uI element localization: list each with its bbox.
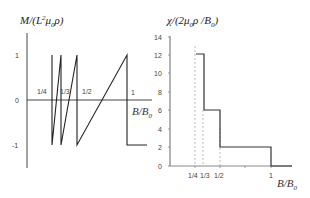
right-x-axis-label: B/B0 (277, 177, 298, 192)
right-ytick-4: 4 (158, 126, 162, 133)
left-ytick-1: 1 (15, 52, 19, 59)
right-xtick-third: 1/3 (200, 172, 210, 179)
right-ytick-2: 2 (158, 144, 162, 151)
right-ytick-12: 12 (154, 52, 162, 59)
left-x-axis-label: B/B0 (132, 105, 153, 120)
right-xtick-one: 1 (269, 172, 273, 179)
right-xtick-quarter: 1/4 (188, 172, 198, 179)
right-step-line (196, 54, 292, 166)
figure: M/(L2μ0ρ) 1 0 -1 1/4 1/3 1/2 1 B/B0 χ/(2… (0, 0, 310, 198)
right-chart-title: χ/(2μ0ρ /B0) (166, 14, 218, 29)
left-chart-title: M/(L2μ0ρ) (19, 14, 64, 29)
left-ytick-minus1: -1 (12, 142, 18, 149)
right-chart: χ/(2μ0ρ /B0) 14 12 10 8 6 4 2 0 (154, 14, 298, 192)
left-annot-quarter: 1/4 (37, 88, 47, 95)
left-annot-one: 1 (131, 89, 135, 96)
right-ytick-8: 8 (158, 89, 162, 96)
right-ytick-0: 0 (158, 163, 162, 170)
left-annot-half: 1/2 (82, 88, 92, 95)
right-reference-lines (195, 46, 220, 166)
left-chart: M/(L2μ0ρ) 1 0 -1 1/4 1/3 1/2 1 B/B0 (12, 14, 153, 168)
right-ytick-14: 14 (154, 34, 162, 41)
right-xtick-half: 1/2 (214, 172, 224, 179)
right-ytick-6: 6 (158, 107, 162, 114)
left-annot-third: 1/3 (60, 88, 70, 95)
left-ytick-0: 0 (15, 97, 19, 104)
right-ytick-10: 10 (154, 70, 162, 77)
